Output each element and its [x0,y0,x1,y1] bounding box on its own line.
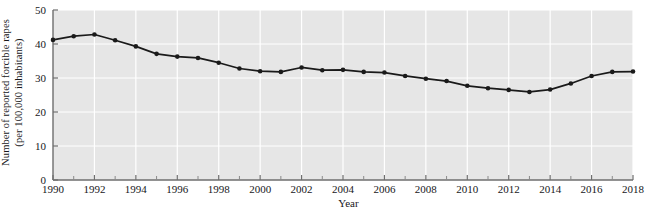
x-tick-label: 1994 [125,183,148,195]
x-tick-label: 1990 [42,183,65,195]
x-tick-label: 2016 [581,183,604,195]
y-axis-title-line1: Number of reported forcible rapes [0,19,11,166]
x-tick-label: 2004 [332,183,355,195]
x-tick-label: 2008 [415,183,438,195]
x-axis-title: Year [0,197,665,209]
x-tick-label: 2000 [249,183,272,195]
data-point-marker [92,32,97,37]
y-axis-title: Number of reported forcible rapes (per 1… [0,5,28,180]
data-point-marker [341,68,346,73]
data-point-marker [71,34,76,39]
x-tick-labels-group: 1990199219941996199820002002200420062008… [42,183,645,195]
data-point-marker [237,66,242,71]
data-point-marker [320,68,325,73]
data-point-marker [589,74,594,79]
x-axis-title-text: Year [338,197,358,209]
data-point-marker [527,90,532,95]
x-tick-label: 2002 [291,183,313,195]
data-point-marker [465,84,470,89]
y-tick-label: 30 [35,72,47,84]
x-tick-label: 2006 [373,183,396,195]
data-point-marker [486,86,491,91]
y-tick-label: 20 [35,106,47,118]
data-point-marker [361,70,366,75]
y-axis-title-line2: (per 100,000 inhabitants) [13,5,26,180]
data-point-marker [444,79,449,84]
data-point-marker [299,65,304,70]
data-point-marker [424,76,429,81]
line-chart-svg: 01020304050 1990199219941996199820002002… [0,0,665,221]
data-point-marker [403,74,408,79]
data-point-marker [134,44,139,49]
data-point-marker [216,60,221,65]
data-point-marker [569,81,574,86]
data-point-marker [196,56,201,61]
x-tick-label: 1996 [166,183,189,195]
y-tick-label: 10 [35,140,47,152]
x-tick-label: 2014 [539,183,562,195]
data-point-marker [154,52,159,57]
data-point-marker [51,38,56,43]
chart-figure: Number of reported forcible rapes (per 1… [0,0,665,221]
data-point-marker [258,69,263,74]
data-point-marker [175,54,180,59]
data-point-marker [548,87,553,92]
data-point-marker [382,70,387,75]
data-point-marker [631,69,636,74]
data-point-marker [610,70,615,75]
x-tick-label: 2018 [622,183,645,195]
x-tick-label: 1992 [83,183,105,195]
x-tick-label: 2012 [498,183,520,195]
data-point-marker [113,38,118,43]
x-tick-label: 1998 [208,183,231,195]
y-tick-label: 40 [35,38,47,50]
y-tick-labels-group: 01020304050 [35,4,47,186]
data-point-marker [506,88,511,93]
x-tick-label: 2010 [456,183,479,195]
y-tick-label: 50 [35,4,47,16]
data-point-marker [279,70,284,75]
